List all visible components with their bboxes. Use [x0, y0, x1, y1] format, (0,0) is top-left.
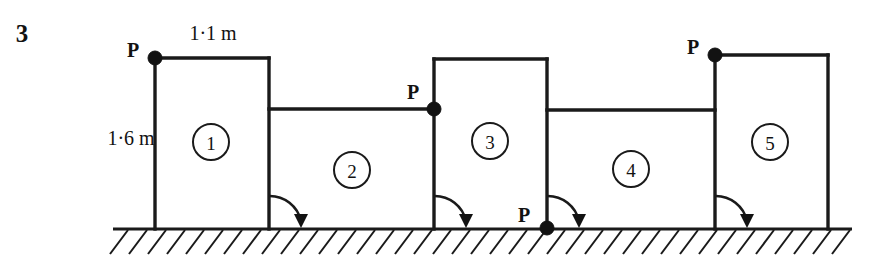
hatch-stroke [129, 230, 147, 254]
member-2-number: 2 [347, 161, 357, 182]
hatch-stroke [794, 230, 812, 254]
hinge-top-left-dot [148, 51, 162, 65]
hatch-stroke [414, 230, 432, 254]
hatch-stroke [376, 230, 394, 254]
rotation-arrow-1-head [294, 214, 308, 228]
hinge-top-left-label: P [127, 39, 139, 61]
hinge-top-right-dot [708, 48, 722, 62]
hatch-stroke [604, 230, 622, 254]
width-dimension-label: 1·1 m [189, 22, 237, 44]
hatch-stroke [832, 230, 850, 254]
hatch-stroke [433, 230, 451, 254]
hatch-stroke [813, 230, 831, 254]
hinge-ground-mid-dot [540, 221, 554, 235]
hinge-top-right-label: P [687, 36, 699, 58]
hatch-stroke [319, 230, 337, 254]
hatch-stroke [642, 230, 660, 254]
hatch-stroke [262, 230, 280, 254]
hatch-stroke [281, 230, 299, 254]
structural-mechanism-diagram: 12345 PPPP 3 1·1 m 1·6 m [0, 0, 884, 265]
hatch-stroke [718, 230, 736, 254]
ground-hatching [110, 230, 850, 254]
hatch-stroke [585, 230, 603, 254]
hatch-stroke [148, 230, 166, 254]
hatch-stroke [338, 230, 356, 254]
hatch-stroke [243, 230, 261, 254]
hatch-stroke [167, 230, 185, 254]
hatch-stroke [186, 230, 204, 254]
hatch-stroke [680, 230, 698, 254]
hatch-stroke [775, 230, 793, 254]
hatch-stroke [205, 230, 223, 254]
member-1-number: 1 [206, 133, 216, 154]
hatch-stroke [661, 230, 679, 254]
hatch-stroke [566, 230, 584, 254]
question-number: 3 [16, 20, 29, 47]
hatch-stroke [452, 230, 470, 254]
hatch-stroke [737, 230, 755, 254]
rotation-arrow-3-head [572, 214, 586, 228]
member-5-number: 5 [765, 133, 775, 154]
height-dimension-label: 1·6 m [107, 127, 155, 149]
hatch-stroke [471, 230, 489, 254]
hinge-beam-mid-label: P [407, 81, 419, 103]
hatch-stroke [490, 230, 508, 254]
member-labels: 12345 [193, 123, 788, 188]
hatch-stroke [224, 230, 242, 254]
hatch-stroke [756, 230, 774, 254]
hatch-stroke [395, 230, 413, 254]
hinge-beam-mid-dot [427, 102, 441, 116]
hatch-stroke [699, 230, 717, 254]
hatch-stroke [623, 230, 641, 254]
hatch-stroke [357, 230, 375, 254]
rotation-arrow-2-head [459, 214, 473, 228]
figure-container: 12345 PPPP 3 1·1 m 1·6 m [0, 0, 884, 265]
rotation-arrow-4-head [740, 214, 754, 228]
hatch-stroke [110, 230, 128, 254]
rotation-arrows [269, 196, 754, 228]
hinge-ground-mid-label: P [518, 204, 530, 226]
hatch-stroke [300, 230, 318, 254]
member-3-number: 3 [485, 132, 495, 153]
hatch-stroke [509, 230, 527, 254]
member-4-number: 4 [626, 160, 636, 181]
